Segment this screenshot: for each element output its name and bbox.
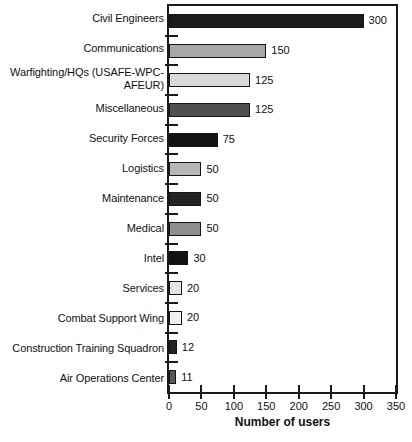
bar <box>169 162 201 176</box>
bar <box>169 14 364 28</box>
x-axis-tick-labels: 050100150200250300350 <box>169 400 396 414</box>
x-axis-title: Number of users <box>167 415 398 429</box>
bar-value-label: 50 <box>206 223 218 234</box>
bar-value-label: 50 <box>206 193 218 204</box>
y-axis-tick <box>165 124 178 126</box>
x-axis-tick-label: 0 <box>153 400 185 412</box>
x-axis-tick <box>330 385 332 399</box>
y-axis-tick <box>165 213 178 215</box>
bar-row: 150 <box>169 36 396 66</box>
bar-row: 20 <box>169 273 396 303</box>
y-axis-tick <box>165 332 178 334</box>
bar-value-label: 20 <box>187 312 199 323</box>
bar-value-label: 30 <box>193 253 205 264</box>
category-label: Warfighting/HQs (USAFE-WPC-AFEUR) <box>0 64 164 94</box>
category-label: Air Operations Center <box>0 364 164 394</box>
plot-area: 300150125125755050503020201211 <box>167 4 398 394</box>
bar-value-label: 12 <box>182 342 194 353</box>
bar-value-label: 50 <box>206 164 218 175</box>
bar-value-label: 125 <box>255 75 273 86</box>
category-labels: Civil EngineersCommunicationsWarfighting… <box>0 4 164 394</box>
bar-chart: Civil EngineersCommunicationsWarfighting… <box>0 0 412 442</box>
y-axis-tick <box>165 272 178 274</box>
x-axis-tick-label: 350 <box>380 400 412 412</box>
bar-row: 125 <box>169 95 396 125</box>
category-label: Security Forces <box>0 124 164 154</box>
category-label: Maintenance <box>0 184 164 214</box>
bar <box>169 73 250 87</box>
bar-value-label: 150 <box>271 45 289 56</box>
bar <box>169 311 182 325</box>
bar-row: 20 <box>169 303 396 333</box>
x-axis-tick-label: 200 <box>283 400 315 412</box>
bar-row: 300 <box>169 6 396 36</box>
x-axis-tick-label: 300 <box>348 400 380 412</box>
y-axis-tick <box>165 64 178 66</box>
bar <box>169 222 201 236</box>
category-label: Intel <box>0 244 164 274</box>
category-label: Civil Engineers <box>0 4 164 34</box>
bar-row: 12 <box>169 333 396 363</box>
x-axis-tick <box>265 385 267 399</box>
category-label: Miscellaneous <box>0 94 164 124</box>
y-axis-tick <box>165 361 178 363</box>
bar-row: 30 <box>169 244 396 274</box>
x-axis-tick <box>168 385 170 399</box>
bar-value-label: 20 <box>187 283 199 294</box>
bar-row: 50 <box>169 184 396 214</box>
bar-rows: 300150125125755050503020201211 <box>169 6 396 392</box>
bar-row: 75 <box>169 125 396 155</box>
bar <box>169 370 176 384</box>
y-axis-tick <box>165 94 178 96</box>
bar <box>169 133 218 147</box>
x-axis-tick <box>298 385 300 399</box>
x-axis-tick-label: 50 <box>185 400 217 412</box>
y-axis-tick <box>165 183 178 185</box>
x-axis-tick <box>363 385 365 399</box>
bar <box>169 103 250 117</box>
bar-value-label: 11 <box>181 372 192 383</box>
x-axis-tick <box>200 385 202 399</box>
category-label: Logistics <box>0 154 164 184</box>
x-axis-tick-label: 250 <box>315 400 347 412</box>
bar-value-label: 125 <box>255 104 273 115</box>
category-label: Communications <box>0 34 164 64</box>
bar <box>169 192 201 206</box>
y-axis-tick <box>165 243 178 245</box>
bar-row: 50 <box>169 154 396 184</box>
bar-value-label: 300 <box>369 15 387 26</box>
x-axis-tick-label: 150 <box>250 400 282 412</box>
bar <box>169 44 266 58</box>
x-axis-tick <box>395 385 397 399</box>
bar-row: 125 <box>169 65 396 95</box>
category-label: Medical <box>0 214 164 244</box>
bar-row: 50 <box>169 214 396 244</box>
x-axis-tick-label: 100 <box>218 400 250 412</box>
x-axis-tick <box>233 385 235 399</box>
y-axis-tick <box>165 302 178 304</box>
bar <box>169 281 182 295</box>
bar <box>169 340 177 354</box>
bar-value-label: 75 <box>223 134 235 145</box>
y-axis-tick <box>165 35 178 37</box>
category-label: Combat Support Wing <box>0 304 164 334</box>
category-label: Services <box>0 274 164 304</box>
y-axis-tick <box>165 153 178 155</box>
bar <box>169 251 188 265</box>
category-label: Construction Training Squadron <box>0 334 164 364</box>
